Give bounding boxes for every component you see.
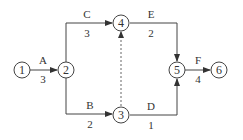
edge-f-activity: F [195,54,201,66]
network-diagram: A 3 C 3 B 2 E 2 D 1 F 4 1 2 [0,0,243,140]
edge-f: F 4 [185,54,210,85]
edge-b: B 2 [66,78,112,130]
arrow-icon [118,31,124,38]
node-3-label: 3 [118,108,124,122]
edge-d: D 1 [130,79,177,131]
node-2-label: 2 [63,63,69,77]
edge-d-activity: D [147,100,155,112]
edge-e: E 2 [130,8,177,61]
edge-d-duration: 1 [148,119,154,131]
edge-a-duration: 3 [40,73,46,85]
edge-a: A 3 [30,54,57,85]
edge-a-activity: A [39,54,47,66]
edge-c: C 3 [66,8,112,62]
edge-b-duration: 2 [87,118,93,130]
node-6-label: 6 [216,63,222,77]
node-1: 1 [14,62,30,78]
node-2: 2 [58,62,74,78]
edge-e-duration: 2 [148,27,154,39]
node-5: 5 [169,62,185,78]
node-4: 4 [113,15,129,31]
node-6: 6 [211,62,227,78]
node-3: 3 [113,107,129,123]
node-1-label: 1 [19,63,25,77]
edge-b-activity: B [86,99,93,111]
edge-e-activity: E [148,8,155,20]
edge-c-duration: 3 [84,27,90,39]
node-4-label: 4 [118,16,124,30]
node-5-label: 5 [174,63,180,77]
edge-dummy [118,31,124,106]
edge-c-activity: C [83,8,90,20]
edge-f-duration: 4 [195,73,201,85]
